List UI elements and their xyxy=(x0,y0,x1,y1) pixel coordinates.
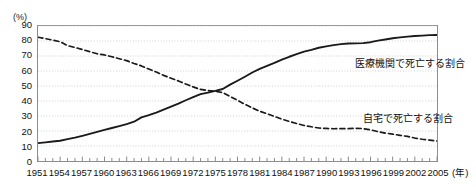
x-tick-label-1972: 1972 xyxy=(182,168,203,178)
x-tick-label-1963: 1963 xyxy=(116,168,137,178)
mortality-location-line-chart: (%) 0102030405060708090 1951195419571960… xyxy=(0,0,476,191)
series-lines xyxy=(38,35,437,143)
series-line-hospital xyxy=(38,35,437,143)
plot-area xyxy=(37,25,438,162)
y-tick-label-20: 20 xyxy=(2,127,32,137)
x-tick-label-1996: 1996 xyxy=(361,168,382,178)
x-axis-tick-marks xyxy=(38,157,437,161)
x-tick-label-1951: 1951 xyxy=(26,168,47,178)
y-tick-label-30: 30 xyxy=(2,111,32,121)
y-tick-label-80: 80 xyxy=(2,35,32,45)
x-tick-label-1984: 1984 xyxy=(271,168,292,178)
y-tick-label-70: 70 xyxy=(2,50,32,60)
x-tick-label-1987: 1987 xyxy=(294,168,315,178)
x-tick-label-1999: 1999 xyxy=(383,168,404,178)
x-tick-label-1960: 1960 xyxy=(93,168,114,178)
x-tick-label-1966: 1966 xyxy=(138,168,159,178)
y-tick-label-10: 10 xyxy=(2,142,32,152)
series-annotation-hospital: 医療機関で死亡する割合 xyxy=(355,58,465,69)
y-tick-label-40: 40 xyxy=(2,96,32,106)
x-tick-label-2002: 2002 xyxy=(405,168,426,178)
y-tick-label-60: 60 xyxy=(2,66,32,76)
y-tick-label-50: 50 xyxy=(2,81,32,91)
x-tick-label-1981: 1981 xyxy=(249,168,270,178)
gridlines xyxy=(38,26,437,146)
x-tick-label-1969: 1969 xyxy=(160,168,181,178)
series-line-home xyxy=(38,37,437,141)
x-tick-label-1993: 1993 xyxy=(338,168,359,178)
x-tick-label-1990: 1990 xyxy=(316,168,337,178)
x-tick-label-2005: 2005 xyxy=(427,168,448,178)
x-tick-label-1957: 1957 xyxy=(71,168,92,178)
x-tick-label-1954: 1954 xyxy=(49,168,70,178)
x-tick-label-1978: 1978 xyxy=(227,168,248,178)
x-tick-label-1975: 1975 xyxy=(205,168,226,178)
y-tick-label-0: 0 xyxy=(2,157,32,167)
series-annotation-home: 自宅で死亡する割合 xyxy=(363,113,453,124)
x-axis-unit-label: (年) xyxy=(452,168,468,178)
y-tick-label-90: 90 xyxy=(2,20,32,30)
plot-svg xyxy=(38,26,437,161)
